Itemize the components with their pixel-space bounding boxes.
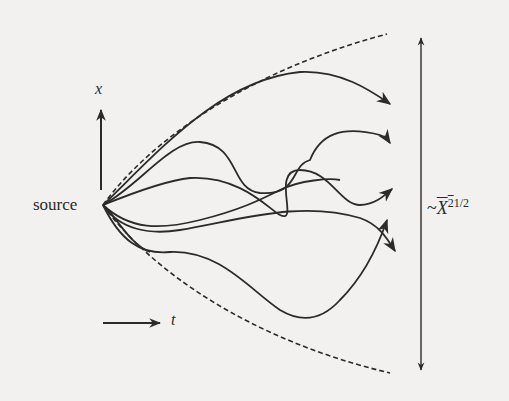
upper-envelope: [103, 34, 387, 205]
trajectory-2: [103, 131, 390, 205]
trajectory-1: [103, 72, 390, 205]
spread-prefix: ~: [427, 198, 437, 218]
spread-var: X2: [437, 198, 454, 218]
trajectory-5: [103, 205, 395, 251]
trajectory-4: [103, 179, 340, 226]
trajectory-3: [103, 170, 392, 216]
t-axis-label: t: [171, 311, 175, 329]
spread-power: 1/2: [454, 196, 469, 210]
trajectory-7: [103, 205, 150, 252]
spread-label: ~X21/2: [427, 196, 469, 219]
spread-var-letter: X: [437, 198, 448, 218]
x-axis-label: x: [95, 80, 102, 98]
diffusion-diagram: source x t ~X21/2: [0, 0, 509, 401]
source-label: source: [33, 195, 77, 215]
trajectory-6: [103, 205, 387, 318]
